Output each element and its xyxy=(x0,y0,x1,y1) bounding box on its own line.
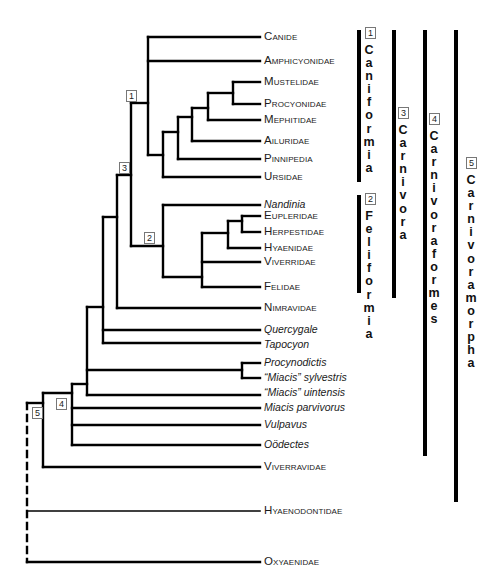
clade-number-box: 3 xyxy=(398,107,409,119)
clade-bar-carnivora xyxy=(392,30,396,298)
clade-number-box: 5 xyxy=(466,157,477,169)
taxon-label: Procyonidae xyxy=(264,97,327,109)
taxon-label: Pinnipedia xyxy=(264,152,313,164)
clade-name-carnivoramorpha: Carnivoramorpha xyxy=(465,174,477,370)
node-number-box: 1 xyxy=(126,90,137,102)
clade-bar-carnivoraformes xyxy=(423,30,427,456)
taxon-label: Oxyaenidae xyxy=(264,555,319,567)
taxon-label: Mustelidae xyxy=(264,75,319,87)
taxon-label: Ailuridae xyxy=(264,134,309,146)
node-number-box: 2 xyxy=(144,232,155,244)
clade-bar-feliformia xyxy=(357,195,361,293)
taxon-label: Felidae xyxy=(264,280,300,292)
taxon-label: Quercygale xyxy=(264,323,318,335)
taxon-label: Hyaenodontidae xyxy=(264,504,342,516)
taxon-label: Tapocyon xyxy=(264,338,309,350)
taxon-label: “Miacis” uintensis xyxy=(264,386,345,398)
node-number-box: 5 xyxy=(32,407,43,419)
clade-number-box: 2 xyxy=(365,193,376,205)
taxon-label: Amphicyonidae xyxy=(264,54,335,66)
node-number-box: 4 xyxy=(56,398,67,410)
taxon-label: “Miacis” sylvestris xyxy=(264,371,347,383)
clade-name-feliformia: Feliformia xyxy=(363,210,375,341)
taxon-label: Procynodictis xyxy=(264,356,326,368)
taxon-label: Nimravidae xyxy=(264,301,317,313)
clade-number-box: 1 xyxy=(365,27,376,39)
taxon-label: Ursidae xyxy=(264,170,303,182)
clade-number-box: 4 xyxy=(429,113,440,125)
taxon-label: Canide xyxy=(264,30,297,42)
taxon-label: Mephitidae xyxy=(264,113,317,125)
taxon-label: Viverravidae xyxy=(264,460,326,472)
clade-bar-carnivoramorpha xyxy=(454,30,458,502)
taxon-label: Hyaenidae xyxy=(264,241,313,253)
taxon-label: Oödectes xyxy=(264,438,309,450)
clade-name-caniformia: Caniformia xyxy=(363,44,375,175)
clade-name-carnivoraformes: Carnivoraformes xyxy=(428,130,440,326)
taxon-label: Herpestidae xyxy=(264,225,324,237)
phylogenetic-tree-canvas xyxy=(0,0,493,584)
clade-name-carnivora: Carnivora xyxy=(397,124,409,242)
taxon-label: Viverridae xyxy=(264,255,316,267)
taxon-label: Miacis parvivorus xyxy=(264,401,345,413)
taxon-label: Eupleridae xyxy=(264,209,318,221)
node-number-box: 3 xyxy=(119,162,130,174)
taxon-label: Vulpavus xyxy=(264,418,307,430)
clade-bar-caniformia xyxy=(357,30,361,182)
